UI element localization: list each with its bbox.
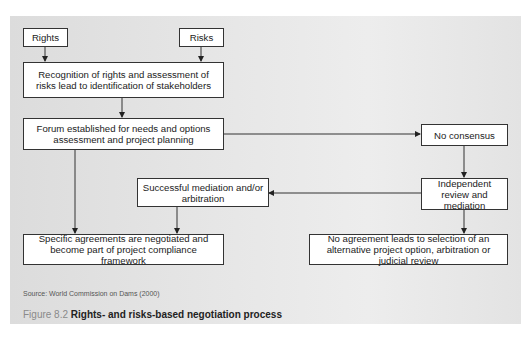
node-specific-agreements: Specific agreements are negotiated and b… (23, 234, 224, 265)
node-label: Specific agreements are negotiated and b… (27, 233, 220, 266)
node-no-agreement: No agreement leads to selection of an al… (309, 234, 508, 265)
node-successful-mediation: Successful mediation and/or arbitration (137, 178, 269, 207)
node-label: Independent review and mediation (425, 178, 504, 211)
node-independent-review: Independent review and mediation (421, 178, 508, 210)
node-label: Rights (32, 32, 59, 43)
node-label: Successful mediation and/or arbitration (141, 182, 265, 204)
node-label: Forum established for needs and options … (27, 123, 220, 145)
node-forum: Forum established for needs and options … (23, 118, 224, 150)
node-label: No consensus (434, 130, 495, 141)
source-note: Source: World Commission on Dams (2000) (23, 289, 160, 298)
node-label: Recognition of rights and assessment of … (27, 69, 220, 91)
node-label: Risks (190, 32, 213, 43)
node-risks: Risks (179, 28, 224, 47)
figure-label: Figure 8.2 (23, 309, 68, 320)
node-rights: Rights (23, 28, 68, 47)
node-label: No agreement leads to selection of an al… (313, 233, 504, 266)
figure-caption: Figure 8.2 Rights- and risks-based negot… (23, 309, 282, 320)
figure-title: Rights- and risks-based negotiation proc… (71, 309, 282, 320)
node-recognition: Recognition of rights and assessment of … (23, 62, 224, 98)
node-no-consensus: No consensus (421, 124, 508, 146)
